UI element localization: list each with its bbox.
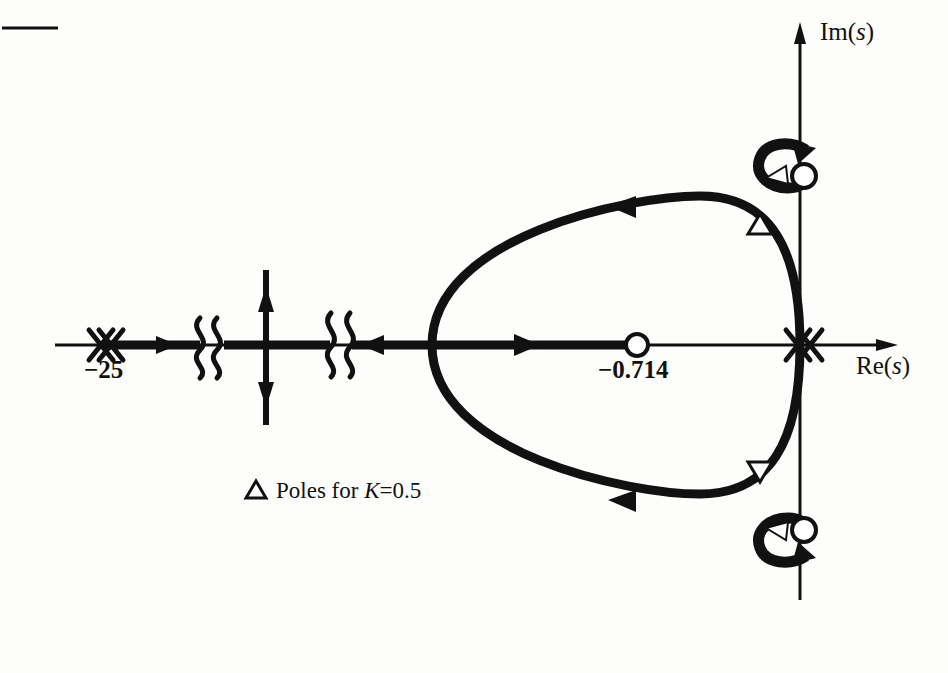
large-oval-locus: [432, 196, 800, 512]
legend-text-before: Poles for: [276, 478, 364, 503]
real-axis-label: Re(s): [856, 352, 910, 380]
imaginary-axis-label-prefix: Im(: [820, 18, 856, 45]
legend-gain-symbol: K: [364, 478, 379, 503]
imaginary-axis-label-suffix: ): [866, 18, 874, 45]
zero-marker-upper-imaginary: [792, 164, 816, 188]
root-locus-canvas: [0, 0, 948, 673]
real-axis-label-prefix: Re(: [856, 352, 892, 379]
pole-tick-label-minus25: −25: [84, 356, 123, 384]
imaginary-axis-label: Im(s): [820, 18, 874, 46]
zero-marker-lower-imaginary: [792, 518, 816, 542]
legend-triangle-icon: [246, 481, 266, 498]
legend-text: Poles for K=0.5: [276, 478, 421, 504]
root-locus-figure: −25 −0.714 Im(s) Re(s) Poles for K=0.5: [0, 0, 948, 673]
real-axis-locus-branch: [104, 334, 630, 356]
legend-gain-value: =0.5: [380, 478, 422, 503]
imaginary-axis-label-var: s: [856, 18, 866, 45]
real-axis-label-suffix: ): [902, 352, 910, 379]
axis-break-squiggle-1: [196, 318, 220, 378]
real-axis-label-var: s: [892, 352, 902, 379]
zero-marker-real: [626, 334, 648, 356]
zero-tick-label-minus0714: −0.714: [598, 356, 669, 384]
